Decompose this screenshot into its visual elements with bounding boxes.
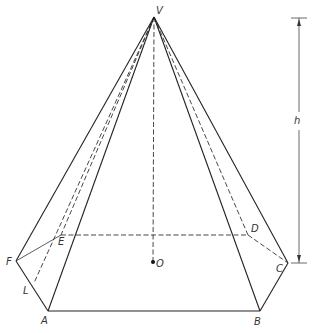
edge-vb [154, 17, 260, 311]
label-l: L [23, 285, 29, 296]
label-b: B [254, 316, 261, 327]
edge-vc [154, 17, 288, 263]
edge-fa [16, 261, 48, 311]
label-a: A [40, 315, 48, 326]
label-d: D [251, 223, 259, 234]
edge-va [48, 17, 154, 311]
pyramid-diagram: V A B C D E F O L h [0, 0, 313, 333]
label-c: C [276, 263, 283, 274]
dimension-arrow-down-icon [297, 255, 301, 262]
label-v: V [156, 5, 164, 16]
edge-bc [260, 263, 288, 311]
edge-vd [154, 17, 248, 235]
edge-ve [61, 17, 154, 235]
edge-vf [16, 17, 154, 261]
edge-dc [248, 235, 288, 263]
center-point-o [151, 260, 155, 264]
dimension-arrow-up-icon [297, 19, 301, 26]
slant-line-vl [34, 17, 154, 283]
height-line-vo [153, 17, 154, 262]
label-f: F [6, 256, 12, 267]
label-h: h [294, 115, 300, 126]
label-o: O [156, 258, 164, 269]
label-e: E [58, 236, 65, 247]
